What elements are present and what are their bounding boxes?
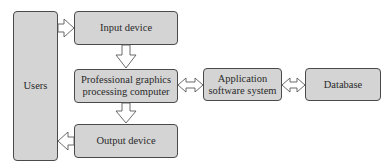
arrow-application-database-bidirectional-icon bbox=[282, 78, 305, 92]
arrow-computer-to-output-icon bbox=[116, 103, 136, 123]
arrow-input-to-computer-icon bbox=[116, 45, 136, 68]
arrow-output-to-users-icon bbox=[58, 132, 74, 150]
arrows-layer bbox=[0, 0, 392, 168]
arrow-users-to-input-icon bbox=[58, 19, 74, 37]
arrow-computer-application-bidirectional-icon bbox=[178, 78, 203, 92]
